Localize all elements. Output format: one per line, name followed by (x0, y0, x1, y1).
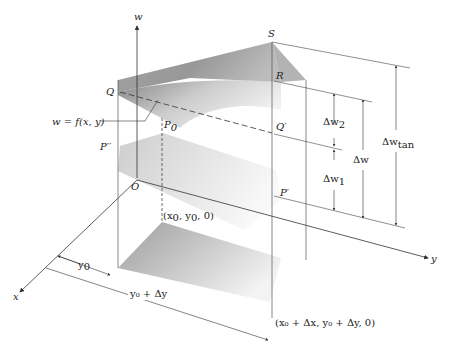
y-axis-label: y (430, 253, 437, 264)
dw-label: Δw (353, 154, 369, 165)
total-differential-diagram: w y x O Δw2 Δw1 Δw Δwtan S R Q Q′ P0 P′′… (0, 0, 450, 361)
point-r-label: R (275, 70, 284, 81)
point-qprime-label: Q′ (276, 121, 287, 132)
x-axis (20, 180, 137, 292)
point-pdoubleprime-label: P′′ (99, 141, 112, 152)
point-s-label: S (268, 28, 275, 39)
surface-label: w = f(x, y) (52, 116, 105, 127)
x-axis-label: x (13, 291, 19, 302)
y0-label: y0 (77, 259, 90, 272)
qprime-leader (274, 134, 342, 150)
r-leader (274, 81, 372, 102)
dw1-label: Δw1 (323, 173, 345, 187)
y0-dim-line-back (58, 256, 78, 263)
pprime-leader (274, 196, 405, 228)
far-point-label: (x₀ + Δx, y₀ + Δy, 0) (275, 317, 375, 328)
point-q-label: Q (106, 86, 114, 97)
w-axis-label: w (134, 11, 143, 22)
base-point-label: (x0, y0, 0) (163, 210, 214, 223)
dw2-label: Δw2 (323, 116, 345, 130)
y0dy-label: y₀ + Δy (129, 288, 168, 299)
point-p0-label: P0 (163, 119, 178, 133)
point-pprime-label: P′ (279, 187, 290, 198)
origin-label: O (131, 181, 139, 192)
s-leader (272, 42, 410, 68)
dwtan-label: Δwtan (382, 136, 415, 150)
